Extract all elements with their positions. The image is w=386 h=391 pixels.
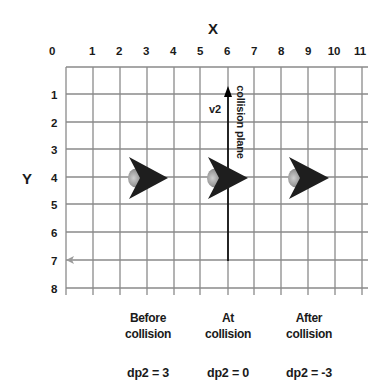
- ship-before-icon: [128, 157, 168, 199]
- collision-plane-label: collision plane: [235, 85, 247, 158]
- caption-at-line2: collision: [205, 326, 251, 342]
- v2-arrowhead-icon: [224, 86, 232, 97]
- caption-at: At collision: [205, 310, 251, 342]
- caption-at-line1: At: [205, 310, 251, 326]
- caption-after-line2: collision: [286, 326, 332, 342]
- v2-label: v2: [209, 103, 221, 115]
- dp-after: dp2 = -3: [286, 366, 332, 380]
- caption-before: Before collision: [125, 310, 171, 342]
- dp-at: dp2 = 0: [207, 366, 249, 380]
- caption-after-line1: After: [286, 310, 332, 326]
- caption-before-line1: Before: [125, 310, 171, 326]
- caption-after: After collision: [286, 310, 332, 342]
- dp-before: dp2 = 3: [127, 366, 169, 380]
- caption-before-line2: collision: [125, 326, 171, 342]
